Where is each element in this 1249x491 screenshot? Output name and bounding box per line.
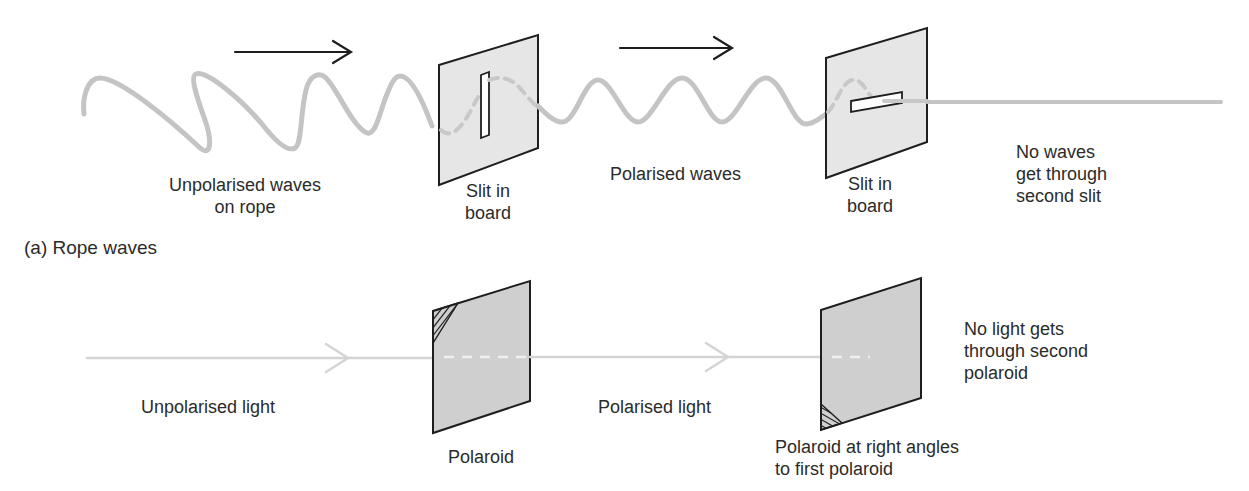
polaroid-2 <box>815 278 921 442</box>
unpolarised-light-beam <box>87 344 433 372</box>
polarised-light-beam <box>530 343 821 371</box>
direction-arrow-icon <box>620 37 732 59</box>
label-no-waves: No waves get through second slit <box>1016 141 1107 207</box>
label-polarised-waves: Polarised waves <box>610 163 741 185</box>
label-slit-1: Slit in board <box>448 180 528 224</box>
slit-board-vertical <box>439 35 538 185</box>
vertical-slit <box>481 72 489 138</box>
label-polarised-light: Polarised light <box>598 396 711 418</box>
direction-arrow-icon <box>235 41 351 63</box>
polarised-rope-wave <box>538 78 826 124</box>
unpolarised-rope-wave <box>84 74 432 151</box>
label-slit-2: Slit in board <box>830 173 910 217</box>
caption-rope-waves: (a) Rope waves <box>24 237 157 259</box>
label-polaroid-2: Polaroid at right angles to first polaro… <box>775 436 959 480</box>
label-unpolarised-light: Unpolarised light <box>141 396 275 418</box>
polaroid-1 <box>425 281 530 433</box>
slit-board-horizontal <box>826 28 927 178</box>
label-polaroid-1: Polaroid <box>448 446 514 468</box>
label-unpolarised-waves: Unpolarised waves on rope <box>150 174 340 218</box>
label-no-light: No light gets through second polaroid <box>964 318 1088 384</box>
